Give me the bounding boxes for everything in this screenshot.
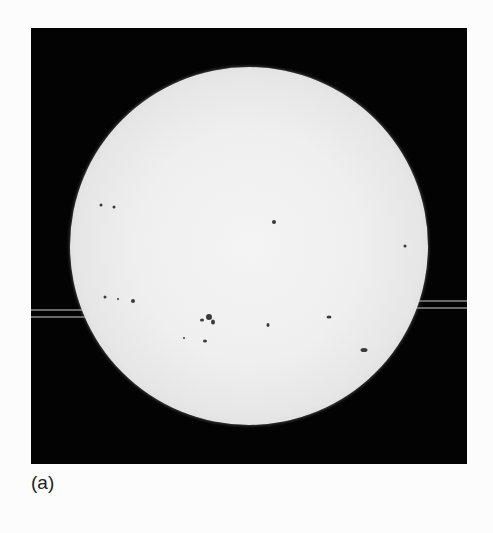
sunspot <box>203 340 207 343</box>
sunspot <box>113 206 116 209</box>
sunspot <box>100 204 103 207</box>
sunspot <box>117 298 119 300</box>
sun-disk <box>70 67 428 425</box>
sunspot <box>361 348 368 352</box>
sunspot <box>272 220 276 224</box>
scan-line-artifact <box>416 307 467 309</box>
sunspot <box>327 316 332 319</box>
sunspot <box>200 319 204 322</box>
sunspot <box>404 245 407 248</box>
figure-caption: (a) <box>31 472 54 494</box>
sunspot <box>104 296 107 299</box>
sunspot <box>267 323 270 327</box>
sunspot <box>183 337 185 339</box>
sunspot <box>211 320 215 325</box>
solar-image-frame <box>31 28 467 464</box>
sunspot <box>131 299 135 303</box>
scan-line-artifact <box>416 300 467 302</box>
scan-line-artifact <box>31 316 91 318</box>
